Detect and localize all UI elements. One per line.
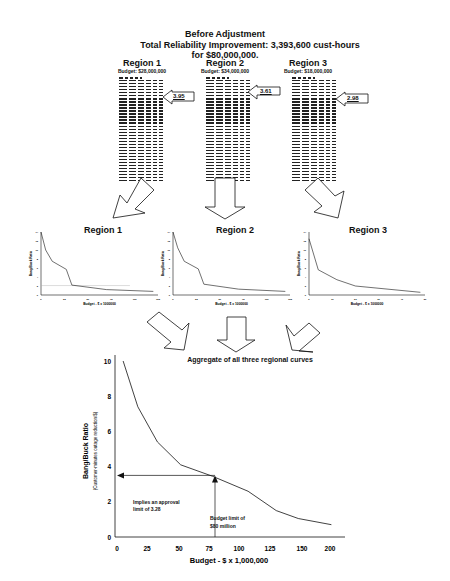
svg-text:6: 6 <box>107 428 111 435</box>
svg-text:Bang/Buck Ratio: Bang/Buck Ratio <box>82 423 90 479</box>
svg-text:100: 100 <box>234 545 245 552</box>
svg-text:200: 200 <box>325 545 336 552</box>
svg-text:75: 75 <box>205 545 213 552</box>
svg-text:0: 0 <box>115 545 119 552</box>
budget-limit-line1: Budget limit of <box>210 514 245 522</box>
aggregate-chart: 02468100255075100125150200Budget - $ x 1… <box>0 0 450 581</box>
svg-text:125: 125 <box>265 545 276 552</box>
budget-limit-line2: $80 million <box>210 522 245 530</box>
svg-text:10: 10 <box>104 358 112 365</box>
approval-limit-line2: limit of 3.28 <box>133 506 180 513</box>
approval-limit-line1: Implies an approval <box>133 499 180 506</box>
svg-text:8: 8 <box>107 393 111 400</box>
svg-text:Budget - $ x 1,000,000: Budget - $ x 1,000,000 <box>190 556 268 565</box>
svg-text:25: 25 <box>143 545 151 552</box>
svg-text:50: 50 <box>175 545 183 552</box>
svg-text:150: 150 <box>297 545 308 552</box>
svg-text:0: 0 <box>107 534 111 541</box>
approval-limit-annotation: Implies an approval limit of 3.28 <box>133 499 180 512</box>
svg-text:2: 2 <box>107 498 111 505</box>
svg-text:(Customer-minutes outage reduc: (Customer-minutes outage reduction/$) <box>93 411 98 490</box>
svg-text:4: 4 <box>107 463 111 470</box>
budget-limit-annotation: Budget limit of $80 million <box>210 514 245 530</box>
